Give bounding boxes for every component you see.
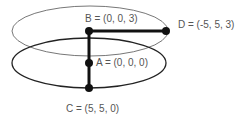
label-b: B = (0, 0, 3) xyxy=(85,13,138,24)
label-c: C = (5, 5, 0) xyxy=(66,103,119,114)
label-d: D = (-5, 5, 3) xyxy=(178,19,234,30)
point-b xyxy=(85,27,93,35)
point-d xyxy=(162,27,170,35)
label-a: A = (0, 0, 0) xyxy=(96,57,148,68)
point-c xyxy=(85,84,93,92)
point-a xyxy=(85,59,93,67)
coordinate-diagram: B = (0, 0, 3) A = (0, 0, 0) C = (5, 5, 0… xyxy=(0,0,245,119)
